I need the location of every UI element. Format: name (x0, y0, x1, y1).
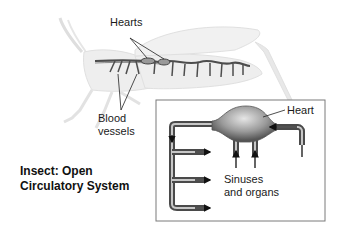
figure-title-line1: Insect: Open (20, 164, 93, 179)
hearts-label: Hearts (110, 16, 142, 29)
blood-vessels-label-line1: Blood (98, 112, 126, 125)
heart-label: Heart (287, 104, 314, 117)
sinuses-label-line1: Sinuses (224, 173, 263, 186)
sinuses-label-line2: and organs (224, 186, 279, 199)
heart-swelling (141, 58, 155, 64)
figure-title-line2: Circulatory System (20, 179, 129, 194)
blood-vessels-label-line2: vessels (98, 125, 135, 138)
diagram-canvas (0, 0, 341, 236)
heart-swelling (158, 59, 170, 65)
